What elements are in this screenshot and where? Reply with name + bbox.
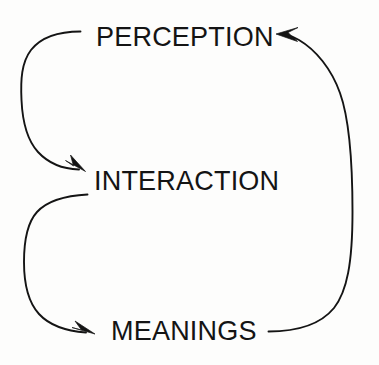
edge-meanings-to-perception-arrowhead bbox=[276, 28, 298, 42]
diagram-canvas: PERCEPTION INTERACTION MEANINGS bbox=[0, 0, 379, 365]
edge-interaction-to-meanings bbox=[24, 195, 95, 335]
edge-perception-to-interaction bbox=[21, 32, 85, 172]
edge-meanings-to-perception-path bbox=[269, 35, 353, 332]
node-label-perception: PERCEPTION bbox=[96, 23, 274, 51]
node-label-meanings: MEANINGS bbox=[111, 317, 257, 345]
edge-meanings-to-perception bbox=[269, 28, 353, 332]
edge-perception-to-interaction-path bbox=[21, 32, 80, 170]
edge-interaction-to-meanings-path bbox=[24, 195, 88, 333]
node-label-interaction: INTERACTION bbox=[94, 167, 279, 195]
